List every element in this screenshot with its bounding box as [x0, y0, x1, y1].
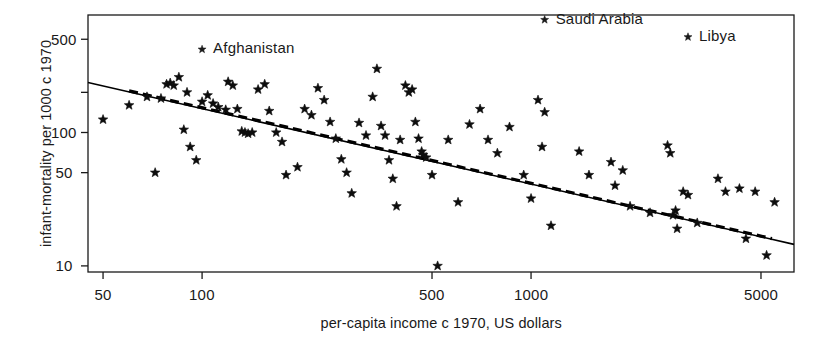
annotation-marker [541, 16, 549, 24]
x-tick-label-500: 500 [419, 286, 445, 303]
data-point [465, 119, 475, 128]
data-point [414, 134, 424, 143]
x-tick-label-100: 100 [189, 286, 215, 303]
data-point [606, 157, 616, 166]
data-point [368, 92, 378, 101]
y-tick-label-500: 500 [51, 31, 77, 48]
data-point [721, 187, 731, 196]
data-point [540, 107, 550, 116]
data-point [372, 64, 382, 73]
x-tick-label-1000: 1000 [514, 286, 548, 303]
annotation-marker [198, 45, 206, 53]
data-point [392, 201, 402, 210]
data-point [325, 117, 335, 126]
data-point [433, 261, 443, 270]
data-point [342, 168, 352, 177]
x-tick-label-5000: 5000 [744, 286, 778, 303]
data-point [762, 250, 772, 259]
x-axis-title: per-capita income c 1970, US dollars [321, 315, 562, 331]
data-point [182, 87, 192, 96]
data-point [233, 104, 243, 113]
data-point [519, 170, 529, 179]
annotation-label-libya: Libya [699, 27, 736, 44]
infant-mortality-scatter-figure: 500 100 50 10 50 100 500 1000 5000 infan… [0, 0, 837, 353]
data-point [331, 134, 341, 143]
data-point [625, 201, 635, 210]
data-point [493, 148, 503, 157]
data-point [277, 137, 287, 146]
data-point [388, 174, 398, 183]
annotation-marker [684, 33, 692, 41]
data-point [271, 128, 281, 137]
data-point [174, 72, 184, 81]
data-point [411, 117, 421, 126]
data-point [185, 142, 195, 151]
data-point [150, 168, 160, 177]
data-point [307, 110, 317, 119]
data-point [313, 83, 323, 92]
annotation-label-afghanistan: Afghanistan [213, 39, 294, 56]
data-point [361, 130, 371, 139]
data-point [260, 79, 270, 88]
data-point [526, 194, 536, 203]
data-point [546, 221, 556, 230]
data-point [354, 118, 364, 127]
data-point [384, 155, 394, 164]
data-point [483, 135, 493, 144]
y-tick-label-100: 100 [51, 124, 77, 141]
data-point [663, 140, 673, 149]
data-point [666, 148, 676, 157]
data-point [156, 93, 166, 102]
data-point [533, 95, 543, 104]
data-point [453, 197, 463, 206]
data-point [672, 224, 682, 233]
data-point [203, 90, 213, 99]
data-point [376, 121, 386, 130]
data-point [645, 208, 655, 217]
y-axis-title: infant-mortality per 1000 c 1970 [38, 40, 54, 247]
data-point [395, 135, 405, 144]
data-point [300, 104, 310, 113]
data-point [427, 170, 437, 179]
data-point [179, 125, 189, 134]
data-point [443, 135, 453, 144]
data-point [475, 104, 485, 113]
data-point [574, 147, 584, 156]
data-point [281, 170, 291, 179]
plot-frame [88, 15, 794, 272]
data-point [713, 174, 723, 183]
data-point [337, 154, 347, 163]
data-point [380, 130, 390, 139]
data-point [264, 106, 274, 115]
annotation-label-saudi-arabia: Saudi Arabia [556, 10, 643, 27]
data-point [347, 188, 357, 197]
data-points [98, 64, 779, 270]
data-point [293, 162, 303, 171]
data-point [735, 184, 745, 193]
data-point [584, 170, 594, 179]
y-tick-label-50: 50 [56, 164, 73, 181]
data-point [750, 187, 760, 196]
data-point [191, 155, 201, 164]
data-point [98, 115, 108, 124]
data-point [124, 100, 134, 109]
data-point [505, 122, 515, 131]
data-point [319, 95, 329, 104]
x-tick-label-50: 50 [95, 286, 112, 303]
data-point [610, 181, 620, 190]
data-point [537, 142, 547, 151]
y-tick-label-10: 10 [56, 257, 73, 274]
data-point [253, 85, 263, 94]
data-point [618, 165, 628, 174]
data-point [770, 197, 780, 206]
